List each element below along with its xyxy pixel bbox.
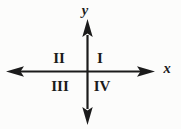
- quadrant-3-label: III: [51, 78, 69, 94]
- quadrant-1-label: I: [97, 50, 103, 66]
- x-axis-label: x: [162, 60, 170, 76]
- quadrant-diagram: y x I II III IV: [0, 0, 181, 129]
- y-axis-label: y: [80, 2, 89, 18]
- coordinate-plane-canvas: y x I II III IV: [0, 0, 181, 129]
- quadrant-4-label: IV: [94, 78, 111, 94]
- quadrant-2-label: II: [53, 50, 65, 66]
